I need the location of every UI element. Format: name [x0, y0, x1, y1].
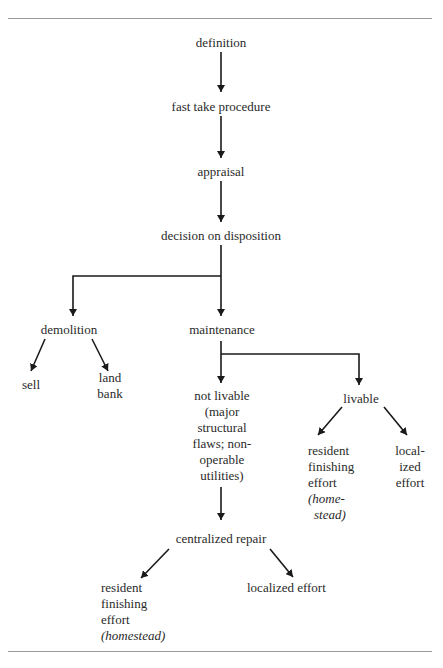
node-land-bank: land bank — [97, 370, 122, 402]
arrow-decision-to-demolition — [73, 276, 221, 316]
arrow-demolition-to-sell — [31, 339, 45, 371]
arrow-demolition-to-land-bank — [92, 339, 108, 371]
node-central-localized-effort: localized effort — [247, 580, 326, 596]
node-centralized-repair: centralized repair — [176, 531, 267, 547]
node-demolition: demolition — [41, 322, 97, 338]
node-livable-resident-finishing-effort: resident finishing effort (home- stead) — [308, 443, 354, 523]
node-appraisal: appraisal — [198, 164, 245, 180]
arrow-livable-to-resident — [318, 407, 342, 435]
node-definition: definition — [196, 35, 247, 51]
bottom-rule — [8, 651, 432, 652]
node-fast-take-procedure: fast take procedure — [172, 99, 271, 115]
node-livable-localized-effort: local- ized effort — [395, 443, 425, 491]
arrow-maintenance-to-livable — [221, 354, 359, 385]
node-sell: sell — [22, 377, 40, 393]
node-decision-on-disposition: decision on disposition — [161, 228, 281, 244]
arrow-livable-to-localized — [384, 407, 407, 435]
node-central-resident-finishing-effort: resident finishing effort (homestead) — [101, 580, 165, 644]
node-maintenance: maintenance — [189, 322, 255, 338]
arrow-centralized-to-resident — [141, 549, 169, 578]
arrow-centralized-to-localized — [270, 549, 293, 577]
node-livable: livable — [343, 391, 378, 407]
node-not-livable: not livable (major structural flaws; non… — [193, 388, 252, 484]
